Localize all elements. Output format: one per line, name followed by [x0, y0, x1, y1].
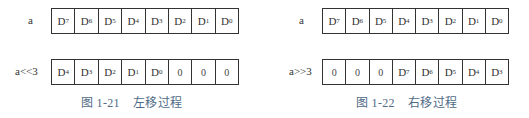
bit-index: 7	[406, 68, 410, 76]
bit-symbol: D	[398, 66, 406, 78]
bit-index: 0	[159, 68, 163, 76]
bit-cell: D2	[169, 9, 192, 33]
bit-symbol: D	[128, 15, 136, 27]
bit-index: 1	[136, 68, 140, 76]
bit-index: 3	[89, 68, 93, 76]
bit-cell: D4	[463, 60, 486, 84]
bit-symbol: D	[174, 15, 182, 27]
bit-index: 7	[336, 17, 340, 25]
bit-cell: D3	[486, 60, 508, 84]
bit-symbol: D	[104, 15, 112, 27]
bit-index: 6	[89, 17, 93, 25]
bit-cell: D2	[439, 9, 462, 33]
right-figure-caption: 图 1-22 右移过程	[356, 93, 457, 111]
bit-index: 7	[65, 17, 69, 25]
bit-symbol: D	[221, 15, 229, 27]
bit-symbol: D	[328, 15, 336, 27]
bit-index: 6	[360, 17, 364, 25]
zero-bit-cell: 0	[346, 60, 369, 84]
bit-index: 1	[206, 17, 210, 25]
bit-index: 5	[112, 17, 116, 25]
bit-symbol: D	[128, 66, 136, 78]
bit-symbol: D	[375, 15, 383, 27]
bit-symbol: D	[491, 15, 499, 27]
bit-symbol: D	[421, 15, 429, 27]
bit-index: 5	[453, 68, 457, 76]
left-register-shifted: D4D3D2D1D0000	[51, 59, 239, 85]
bit-symbol: D	[81, 15, 89, 27]
left-bottom-row-label: a<<3	[15, 66, 38, 77]
bit-cell: D1	[122, 60, 145, 84]
bit-cell: D1	[192, 9, 215, 33]
bit-symbol: D	[57, 15, 65, 27]
bit-index: 4	[406, 17, 410, 25]
bit-symbol: 0	[178, 67, 183, 78]
zero-bit-cell: 0	[169, 60, 192, 84]
bit-cell: D0	[486, 9, 508, 33]
bit-index: 1	[476, 17, 480, 25]
bit-index: 3	[159, 17, 163, 25]
bit-cell: D6	[75, 9, 98, 33]
bit-index: 2	[112, 68, 116, 76]
bit-cell: D3	[146, 9, 169, 33]
bit-index: 2	[453, 17, 457, 25]
bit-symbol: D	[468, 66, 476, 78]
bit-cell: D1	[463, 9, 486, 33]
bit-symbol: D	[468, 15, 476, 27]
bit-index: 2	[182, 17, 186, 25]
bit-symbol: 0	[355, 67, 360, 78]
bit-cell: D5	[99, 9, 122, 33]
bit-cell: D0	[216, 9, 238, 33]
bit-symbol: 0	[201, 67, 206, 78]
bit-cell: D5	[370, 9, 393, 33]
left-top-row-label: a	[28, 15, 33, 26]
bit-symbol: D	[491, 66, 499, 78]
bit-symbol: D	[445, 15, 453, 27]
bit-cell: D7	[52, 9, 75, 33]
bit-cell: D0	[146, 60, 169, 84]
bit-symbol: D	[421, 66, 429, 78]
bit-index: 4	[136, 17, 140, 25]
bit-symbol: 0	[332, 67, 337, 78]
bit-symbol: D	[151, 15, 159, 27]
bit-cell: D4	[122, 9, 145, 33]
bit-cell: D2	[99, 60, 122, 84]
bit-symbol: D	[57, 66, 65, 78]
zero-bit-cell: 0	[370, 60, 393, 84]
bit-symbol: D	[104, 66, 112, 78]
bit-cell: D4	[52, 60, 75, 84]
bit-cell: D4	[393, 9, 416, 33]
bit-index: 0	[229, 17, 233, 25]
bit-cell: D6	[346, 9, 369, 33]
right-top-row-label: a	[299, 15, 304, 26]
zero-bit-cell: 0	[216, 60, 238, 84]
bit-symbol: D	[151, 66, 159, 78]
bit-cell: D3	[75, 60, 98, 84]
bit-cell: D7	[393, 60, 416, 84]
bit-symbol: D	[445, 66, 453, 78]
bit-index: 6	[429, 68, 433, 76]
left-figure-caption: 图 1-21 左移过程	[81, 93, 182, 111]
zero-bit-cell: 0	[323, 60, 346, 84]
bit-symbol: D	[198, 15, 206, 27]
bit-index: 4	[476, 68, 480, 76]
bit-symbol: 0	[224, 67, 229, 78]
bit-symbol: D	[81, 66, 89, 78]
bit-index: 5	[383, 17, 387, 25]
bit-symbol: D	[398, 15, 406, 27]
bit-index: 4	[65, 68, 69, 76]
bit-cell: D5	[439, 60, 462, 84]
bit-index: 0	[499, 17, 503, 25]
bit-symbol: D	[352, 15, 360, 27]
bit-cell: D3	[416, 9, 439, 33]
right-bottom-row-label: a>>3	[289, 66, 312, 77]
bit-index: 3	[429, 17, 433, 25]
right-register-shifted: 000D7D6D5D4D3	[322, 59, 509, 85]
left-register-original: D7D6D5D4D3D2D1D0	[51, 8, 239, 34]
bit-cell: D6	[416, 60, 439, 84]
zero-bit-cell: 0	[192, 60, 215, 84]
right-register-original: D7D6D5D4D3D2D1D0	[322, 8, 509, 34]
bit-index: 3	[499, 68, 503, 76]
bit-cell: D7	[323, 9, 346, 33]
bit-symbol: 0	[378, 67, 383, 78]
